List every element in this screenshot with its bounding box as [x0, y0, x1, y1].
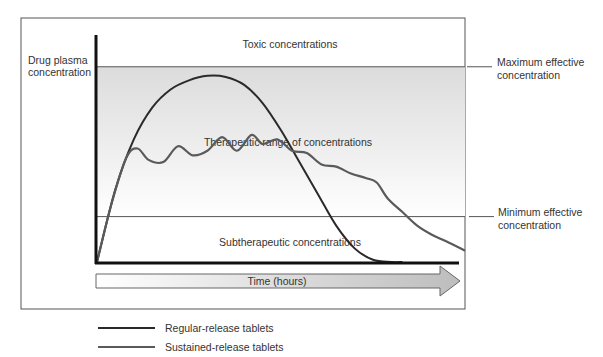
zone-label-subtherapeutic: Subtherapeutic concentrations — [219, 236, 361, 248]
drug-concentration-chart: Toxic concentrations Therapeutic range o… — [0, 0, 603, 357]
min-effective-label-line2: concentration — [498, 219, 561, 231]
zone-label-toxic: Toxic concentrations — [242, 38, 337, 50]
y-axis-label-line2: concentration — [28, 66, 91, 78]
max-effective-label-line2: concentration — [497, 69, 560, 81]
x-axis-label: Time (hours) — [247, 275, 306, 287]
legend-label-sustained: Sustained-release tablets — [165, 341, 284, 353]
min-effective-label-line1: Minimum effective — [498, 206, 583, 218]
y-axis-label-line1: Drug plasma — [28, 54, 88, 66]
legend-label-regular: Regular-release tablets — [165, 322, 274, 334]
max-effective-label-line1: Maximum effective — [497, 56, 584, 68]
